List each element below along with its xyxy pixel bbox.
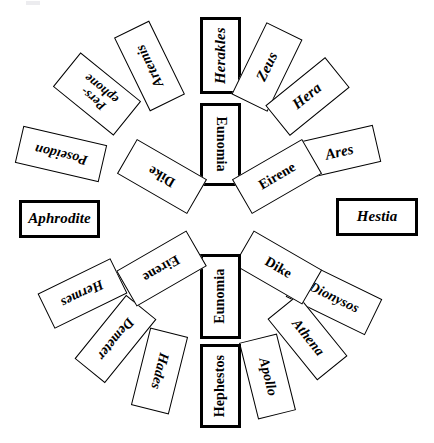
outer-label-persephone: Pers-ephone: [73, 71, 120, 116]
inner-label-eunomia-top: Eunomia: [213, 117, 227, 172]
outer-label-poseidon: Poseidon: [33, 141, 89, 167]
outer-label-hermes: Hermes: [59, 277, 106, 310]
outer-label-hephestos: Hephestos: [213, 355, 227, 417]
outer-label-ares: Ares: [323, 141, 354, 162]
inner-node-eirene-lower-left: Eirene: [116, 230, 207, 306]
outer-node-herakles: Herakles: [200, 17, 241, 94]
inner-label-eirene-lower-left: Eirene: [141, 252, 183, 284]
outer-label-hestia: Hestia: [357, 209, 398, 224]
outer-node-hestia: Hestia: [336, 198, 418, 236]
scan-artifact: [26, 1, 40, 5]
outer-label-herakles: Herakles: [213, 27, 228, 84]
inner-node-eunomia-bottom: Eunomia: [200, 254, 241, 339]
outer-label-hades: Hades: [148, 351, 171, 390]
inner-label-dike-lower-right: Dike: [262, 254, 294, 281]
inner-label-dike-upper-left: Dike: [146, 163, 178, 190]
outer-label-artemis: Artemis: [133, 42, 166, 89]
inner-node-eunomia-top: Eunomia: [200, 103, 241, 186]
inner-label-eunomia-bottom: Eunomia: [213, 269, 227, 324]
outer-label-demeter: Demeter: [94, 315, 136, 363]
outer-label-athena: Athena: [289, 316, 327, 358]
outer-node-hephestos: Hephestos: [200, 344, 241, 428]
outer-label-hera: Hera: [290, 80, 325, 112]
outer-node-poseidon: Poseidon: [15, 126, 107, 182]
radial-rosette-diagram: HeraklesZeusHeraAresHestiaDionysosAthena…: [0, 0, 434, 443]
inner-node-dike-upper-left: Dike: [117, 139, 207, 214]
inner-label-eirene-upper-right: Eirene: [256, 160, 298, 192]
inner-node-eirene-upper-right: Eirene: [232, 139, 322, 214]
outer-label-dionysos: Dionysos: [307, 280, 362, 316]
outer-node-hades: Hades: [131, 327, 188, 414]
outer-label-zeus: Zeus: [253, 50, 280, 84]
outer-node-aphrodite: Aphrodite: [19, 200, 100, 238]
outer-label-apollo: Apollo: [256, 356, 279, 397]
outer-label-aphrodite: Aphrodite: [28, 211, 91, 226]
outer-node-apollo: Apollo: [239, 333, 296, 419]
